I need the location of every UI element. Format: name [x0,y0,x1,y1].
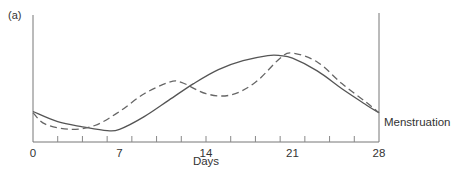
dashed-line [33,53,379,129]
x-axis-title: Days [193,155,219,167]
x-tick-label: 28 [373,147,386,159]
axes: 07142128 Days [30,13,386,167]
x-tick-label: 21 [286,147,299,159]
x-tick-label: 7 [116,147,122,159]
series-group [33,53,379,131]
x-tick-label: 0 [30,147,36,159]
x-minor-ticks [58,136,355,142]
cycle-chart: 07142128 Days Menstruation [0,0,458,176]
menstruation-annotation: Menstruation [384,116,450,128]
